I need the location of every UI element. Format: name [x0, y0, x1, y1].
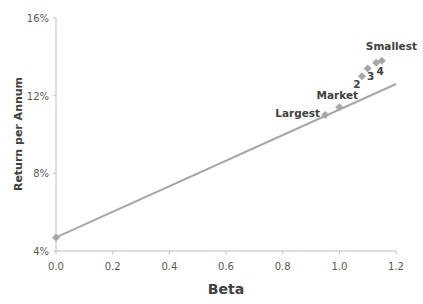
point-label: Market	[317, 89, 359, 101]
diamond-marker	[52, 233, 60, 241]
y-tick-label: 16%	[27, 13, 49, 24]
plot-area: 0.00.20.40.60.81.01.24%8%12%16%LargestMa…	[27, 13, 417, 272]
x-tick-label: 1.0	[331, 261, 347, 272]
y-tick-label: 4%	[33, 246, 49, 257]
x-tick-label: 0.6	[218, 261, 234, 272]
point-label: Smallest	[366, 40, 417, 52]
y-tick-label: 12%	[27, 91, 49, 102]
point-label: 4	[377, 65, 384, 77]
point-label: 2	[353, 78, 360, 90]
x-tick-label: 0.8	[275, 261, 291, 272]
x-tick-label: 1.2	[388, 261, 404, 272]
y-axis-title: Return per Annum	[12, 77, 25, 191]
point-label: Largest	[275, 107, 320, 119]
x-tick-label: 0.2	[105, 261, 121, 272]
y-tick-label: 8%	[33, 168, 49, 179]
x-tick-label: 0.0	[48, 261, 64, 272]
scatter-chart: 0.00.20.40.60.81.01.24%8%12%16%LargestMa…	[0, 0, 423, 304]
security-market-line	[56, 84, 396, 237]
x-axis-title: Beta	[208, 281, 244, 297]
point-label: 3	[367, 70, 374, 82]
x-tick-label: 0.4	[161, 261, 177, 272]
